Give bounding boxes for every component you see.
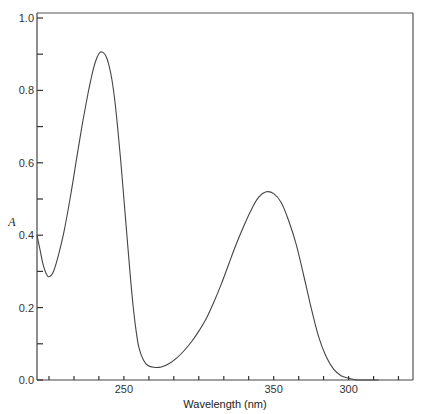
y-tick-label: 0.6 [19,157,34,169]
x-tick-label: 300 [339,383,357,395]
x-tick-label: 250 [115,383,133,395]
y-tick-label: 0.4 [19,229,34,241]
x-axis-label: Wavelength (nm) [183,398,266,410]
series-line-absorbance [37,52,379,380]
y-tick-label: 1.0 [19,12,34,24]
absorbance-chart: 0.00.20.40.60.81.0250350300 Wavelength (… [0,0,425,414]
y-tick-label: 0.2 [19,302,34,314]
y-tick-label: 0.8 [19,84,34,96]
y-tick-label: 0.0 [19,374,34,386]
y-axis-label: A [7,215,16,229]
x-tick-label: 350 [265,383,283,395]
